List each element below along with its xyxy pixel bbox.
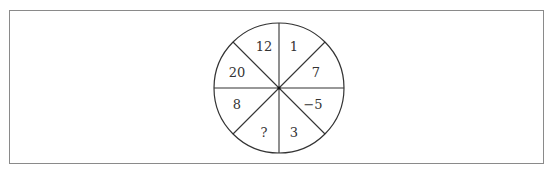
sector-label-left-upper: 20 <box>229 66 246 79</box>
sector-label-bottom-left-unknown: ? <box>261 126 268 139</box>
number-wheel <box>0 0 549 174</box>
sector-label-top-left: 12 <box>256 40 273 53</box>
sector-label-right-lower: −5 <box>303 98 322 111</box>
sector-label-left-lower: 8 <box>233 98 241 111</box>
sector-label-bottom-right: 3 <box>290 126 298 139</box>
sector-label-right-upper: 7 <box>312 66 320 79</box>
sector-label-top-right: 1 <box>290 40 298 53</box>
center-dot <box>277 86 280 89</box>
